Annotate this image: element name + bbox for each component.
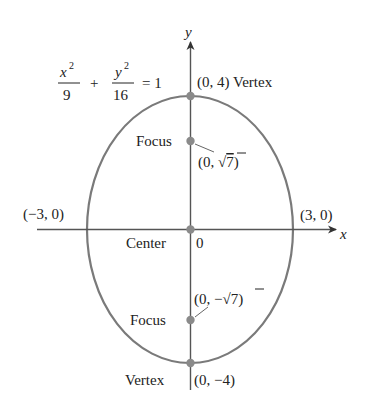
top-vertex-point [186,92,194,100]
center-point [186,225,194,233]
upper-focus-point [186,137,194,145]
ellipse-equation: x 2 9 + y 2 16 = 1 [58,60,162,103]
bottom-vertex-label: Vertex [125,372,165,388]
left-intercept-label: (−3, 0) [23,206,64,223]
right-intercept-label: (3, 0) [300,207,333,224]
bottom-vertex-coord: (0, −4) [194,372,235,389]
top-vertex-label: (0, 4) Vertex [197,74,273,91]
upper-focus-label: Focus [136,133,172,149]
ellipse-diagram: x y x 2 9 + y 2 16 = 1 (0, 4) Vertex Foc… [0,0,376,399]
svg-text:x: x [59,64,67,80]
origin-label: 0 [196,235,204,251]
svg-text:y: y [113,64,122,80]
y-axis-label: y [183,24,192,40]
upper-focus-leader [195,144,214,152]
svg-text:9: 9 [63,87,71,103]
lower-focus-leader [195,307,208,317]
svg-text:+: + [90,75,98,91]
lower-focus-coord: (0, −√7) [194,291,243,308]
center-label: Center [126,235,166,251]
svg-text:= 1: = 1 [142,75,162,91]
svg-text:2: 2 [69,60,74,71]
lower-focus-point [186,316,194,324]
upper-focus-coord: (0, √7) [198,154,239,171]
x-axis-label: x [339,226,347,242]
svg-text:2: 2 [124,60,129,71]
bottom-vertex-point [186,359,194,367]
lower-focus-label: Focus [130,312,166,328]
svg-text:16: 16 [113,87,129,103]
